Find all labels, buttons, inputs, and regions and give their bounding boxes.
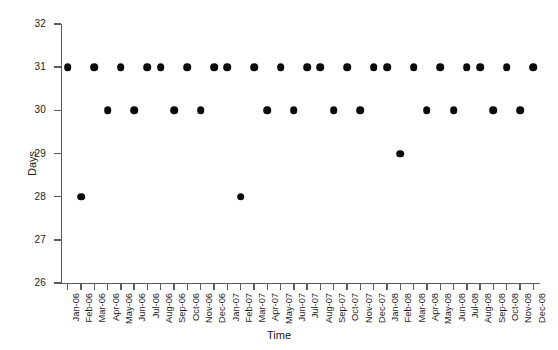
x-axis-tick-label: Aug-07 <box>325 293 334 323</box>
data-point <box>157 63 165 71</box>
x-axis-tick-label: Sep-07 <box>338 293 347 323</box>
x-axis-tick-label: Jan-07 <box>232 293 241 321</box>
x-axis-tick <box>94 283 95 290</box>
x-axis-tick <box>107 283 108 290</box>
x-axis-tick <box>386 283 387 290</box>
data-point <box>317 63 325 71</box>
data-point <box>197 107 205 115</box>
x-axis-tick-label: Jul-07 <box>311 293 320 318</box>
x-axis-tick-label: Oct-07 <box>351 293 360 321</box>
x-axis-tick-label: Nov-07 <box>365 293 374 323</box>
x-axis-tick <box>493 283 494 290</box>
data-point <box>370 63 378 71</box>
data-point <box>130 107 138 115</box>
x-axis-tick <box>479 283 480 290</box>
data-point <box>503 63 511 71</box>
data-point <box>463 63 471 71</box>
data-point <box>450 107 458 115</box>
data-point <box>117 63 125 71</box>
x-axis-tick <box>333 283 334 290</box>
y-axis-tick <box>54 66 61 67</box>
y-axis-tick-label: 27 <box>0 235 46 245</box>
x-axis-tick <box>440 283 441 290</box>
x-axis-tick <box>293 283 294 290</box>
x-axis-tick <box>120 283 121 290</box>
x-axis-tick <box>160 283 161 290</box>
x-axis-tick <box>240 283 241 290</box>
x-axis-tick <box>133 283 134 290</box>
x-axis-tick-label: Sep-06 <box>178 293 187 323</box>
x-axis-tick <box>320 283 321 290</box>
x-axis-tick <box>466 283 467 290</box>
x-axis-tick <box>413 283 414 290</box>
x-axis-tick <box>80 283 81 290</box>
x-axis-tick-label: Jan-06 <box>72 293 81 321</box>
data-point <box>516 107 524 115</box>
x-axis-tick-label: Aug-08 <box>484 293 493 323</box>
x-axis-tick-label: Mar-06 <box>98 293 107 322</box>
x-axis-tick-label: Apr-06 <box>112 293 121 321</box>
data-point <box>290 107 298 115</box>
x-axis-tick <box>373 283 374 290</box>
y-axis-title: Days <box>27 124 38 204</box>
x-axis-tick-label: Nov-08 <box>524 293 533 323</box>
y-axis-tick-label: 26 <box>0 278 46 288</box>
x-axis-tick <box>200 283 201 290</box>
x-axis-tick <box>519 283 520 290</box>
x-axis-tick-label: Dec-06 <box>218 293 227 323</box>
y-axis-tick-label: 28 <box>0 192 46 202</box>
x-axis-tick-label: Oct-06 <box>192 293 201 321</box>
data-point <box>396 150 404 158</box>
y-axis-tick <box>54 282 61 283</box>
y-axis-tick-label: 29 <box>0 149 46 159</box>
x-axis-tick <box>453 283 454 290</box>
data-point <box>303 63 311 71</box>
y-axis-tick <box>54 153 61 154</box>
y-axis-tick-label: 32 <box>0 19 46 29</box>
data-point <box>357 107 365 115</box>
x-axis-tick-label: Feb-06 <box>85 293 94 322</box>
data-point <box>490 107 498 115</box>
x-axis-tick <box>67 283 68 290</box>
data-point <box>77 193 85 201</box>
data-point <box>104 107 112 115</box>
x-axis-tick-label: Jul-06 <box>152 293 161 318</box>
data-point <box>410 63 418 71</box>
x-axis-tick <box>533 283 534 290</box>
x-axis-tick <box>227 283 228 290</box>
data-point <box>170 107 178 115</box>
x-axis-tick <box>506 283 507 290</box>
x-axis-tick-label: Feb-07 <box>245 293 254 322</box>
x-axis-tick <box>187 283 188 290</box>
data-point <box>250 63 258 71</box>
x-axis-tick <box>147 283 148 290</box>
data-point <box>144 63 152 71</box>
data-point <box>277 63 285 71</box>
x-axis-tick-label: Apr-08 <box>431 293 440 321</box>
x-axis-tick <box>280 283 281 290</box>
x-axis-tick <box>426 283 427 290</box>
x-axis-tick-label: Dec-07 <box>378 293 387 323</box>
y-axis-tick <box>54 196 61 197</box>
data-point <box>330 107 338 115</box>
data-point <box>343 63 351 71</box>
x-axis-tick-label: Jan-08 <box>391 293 400 321</box>
x-axis-tick-label: Jul-08 <box>471 293 480 318</box>
y-axis-tick <box>54 239 61 240</box>
x-axis-tick-label: Jun-06 <box>138 293 147 321</box>
x-axis-tick <box>173 283 174 290</box>
x-axis-tick-label: Oct-08 <box>511 293 520 321</box>
x-axis-tick-label: May-07 <box>285 293 294 324</box>
x-axis-tick-label: Sep-08 <box>498 293 507 323</box>
x-axis-tick-label: Dec-08 <box>538 293 547 323</box>
x-axis-tick-label: Mar-08 <box>418 293 427 322</box>
x-axis-tick <box>253 283 254 290</box>
x-axis-tick <box>267 283 268 290</box>
x-axis-title: Time <box>0 330 558 341</box>
x-axis-tick-label: Mar-07 <box>258 293 267 322</box>
data-point <box>383 63 391 71</box>
scatter-chart: 26272829303132 Jan-06Feb-06Mar-06Apr-06M… <box>0 0 558 350</box>
x-axis-tick-label: Apr-07 <box>271 293 280 321</box>
data-point <box>210 63 218 71</box>
x-axis-tick-label: Feb-08 <box>404 293 413 322</box>
